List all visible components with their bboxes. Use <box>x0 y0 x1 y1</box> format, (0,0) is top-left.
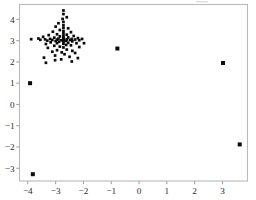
scatter-point <box>71 50 74 53</box>
scatter-point <box>74 52 77 55</box>
scatter-point <box>58 45 61 48</box>
scatter-point <box>42 35 45 38</box>
scatter-point <box>62 27 65 30</box>
scatter-point <box>56 49 59 52</box>
scatter-point <box>45 43 48 46</box>
y-axis-tick-label: 1 <box>10 78 15 88</box>
y-axis-tick-label: 2 <box>10 57 15 67</box>
scatter-point <box>62 21 65 24</box>
scatter-point <box>58 29 61 32</box>
scatter-point <box>70 60 73 63</box>
scatter-point <box>53 44 56 47</box>
scatter-point <box>45 61 48 64</box>
scatter-point <box>54 54 57 57</box>
scatter-point <box>31 172 35 176</box>
scatter-point <box>75 42 78 45</box>
scatter-point <box>47 34 50 37</box>
scatter-point <box>65 33 68 36</box>
x-axis-tick-label: −4 <box>23 186 33 196</box>
y-axis-tick-label: −2 <box>5 142 15 152</box>
scatter-point <box>72 35 75 38</box>
data-point-layer <box>28 9 242 176</box>
scatter-point <box>65 48 68 51</box>
scatter-point <box>51 50 54 53</box>
scatter-point <box>62 24 65 27</box>
y-axis-tick-label: 4 <box>10 15 15 25</box>
scatter-point <box>78 39 81 42</box>
scatter-point <box>68 55 71 58</box>
scatter-point <box>58 35 61 38</box>
scatter-point <box>49 41 52 44</box>
y-axis-tick-label: 3 <box>10 36 15 46</box>
scatter-point <box>63 53 66 56</box>
scatter-point <box>62 46 65 49</box>
scatter-point <box>57 22 60 25</box>
scatter-point <box>53 36 56 39</box>
y-axis-tick-group: −3−2−101234 <box>5 15 20 174</box>
scatter-point <box>43 56 46 59</box>
x-axis-tick-label: 1 <box>165 186 170 196</box>
scatter-point <box>70 44 73 47</box>
x-axis-tick-label: 0 <box>137 186 142 196</box>
x-axis-tick-label: −2 <box>79 186 89 196</box>
scatter-point <box>60 51 63 54</box>
scatter-point <box>52 30 55 33</box>
scatter-point <box>65 44 68 47</box>
scatter-point <box>238 142 242 146</box>
scatter-point <box>60 58 63 61</box>
scatter-plot-figure: −3−2−101234 −4−3−2−10123 <box>0 0 256 200</box>
y-axis-tick-label: 0 <box>10 100 15 110</box>
scatter-point <box>115 47 119 51</box>
scatter-point <box>65 16 68 19</box>
scatter-point <box>56 33 59 36</box>
scatter-point <box>70 31 73 34</box>
x-axis-tick-group: −4−3−2−10123 <box>23 181 225 196</box>
x-axis-tick-label: −3 <box>51 186 61 196</box>
scatter-point <box>56 42 59 45</box>
scatter-point <box>28 81 32 85</box>
scatter-point <box>71 40 74 43</box>
scatter-point <box>46 39 49 42</box>
scatter-point <box>83 42 86 45</box>
scatter-plot-canvas: −3−2−101234 −4−3−2−10123 <box>0 0 256 200</box>
x-axis-tick-label: −1 <box>106 186 116 196</box>
scatter-point <box>54 25 57 28</box>
x-axis-tick-label: 2 <box>192 186 197 196</box>
scatter-point <box>39 38 42 41</box>
scatter-point <box>62 13 65 16</box>
y-axis-tick-label: −3 <box>5 164 15 174</box>
scatter-point <box>62 9 65 12</box>
scatter-point <box>78 46 81 49</box>
scatter-point <box>61 18 64 21</box>
scatter-point <box>62 32 65 35</box>
scatter-point <box>77 57 80 60</box>
top-artifact-mark <box>196 1 208 2</box>
scatter-point <box>74 38 77 41</box>
scatter-point <box>51 39 54 42</box>
scatter-point <box>221 61 225 65</box>
scatter-point <box>62 42 65 45</box>
scatter-point <box>81 38 84 41</box>
scatter-point <box>30 38 33 41</box>
scatter-point <box>47 47 50 50</box>
scatter-point <box>67 27 70 30</box>
x-axis-tick-label: 3 <box>220 186 225 196</box>
scatter-point <box>54 59 57 62</box>
y-axis-tick-label: −1 <box>5 121 15 131</box>
